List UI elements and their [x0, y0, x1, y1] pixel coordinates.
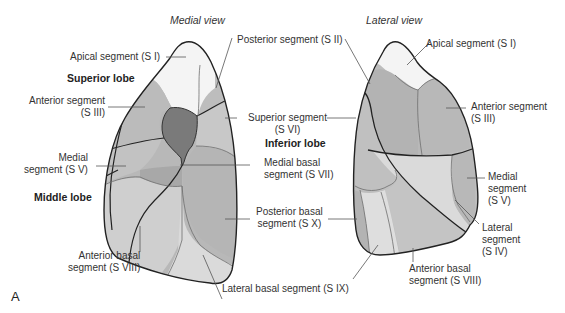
- medial-view-title: Medial view: [170, 14, 225, 26]
- label-medial-middle: Medial segment (S V): [24, 152, 88, 176]
- label-medial-apical: Apical segment (S I): [70, 51, 160, 63]
- label-middle-lobe: Middle lobe: [34, 191, 92, 203]
- label-lateral-medial: Medial segment (S V): [488, 171, 526, 207]
- label-medial-posterior-basal: Posterior basal segment (S X): [256, 206, 323, 230]
- panel-letter: A: [11, 289, 20, 304]
- lateral-view-title: Lateral view: [366, 14, 422, 26]
- label-inferior-lobe: Inferior lobe: [265, 137, 326, 149]
- label-medial-basal: Medial basal segment (S VII): [264, 157, 333, 181]
- label-lateral-apical: Apical segment (S I): [426, 38, 516, 50]
- label-medial-anterior: Anterior segment (S III): [29, 95, 105, 119]
- label-medial-anterior-basal: Anterior basal segment (S VIII): [68, 250, 140, 274]
- label-medial-superior: Superior segment (S VI): [248, 112, 327, 136]
- lateral-anterior-segment: [418, 78, 470, 155]
- label-superior-lobe: Superior lobe: [67, 72, 135, 84]
- label-lateral-basal: Lateral basal segment (S IX): [222, 283, 349, 295]
- label-lateral-anterior: Anterior segment (S III): [471, 101, 547, 125]
- label-medial-posterior: Posterior segment (S II): [237, 34, 343, 46]
- label-lateral-lateral: Lateral segment (S IV): [482, 222, 520, 258]
- label-lateral-anterior-basal: Anterior basal segment (S VIII): [409, 263, 481, 287]
